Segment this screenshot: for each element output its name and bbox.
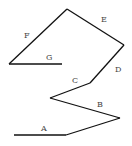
segments bbox=[9, 9, 124, 135]
segment-b-lower bbox=[66, 118, 120, 135]
label-a: A bbox=[40, 124, 47, 133]
segment-e bbox=[67, 9, 124, 45]
label-b: B bbox=[97, 100, 103, 109]
segment-b-upper bbox=[50, 98, 120, 118]
segment-f bbox=[9, 9, 67, 64]
path-diagram: A B C D E F G bbox=[0, 0, 132, 146]
labels: A B C D E F G bbox=[24, 15, 121, 133]
label-c: C bbox=[72, 76, 78, 85]
label-e: E bbox=[101, 15, 107, 24]
segment-c bbox=[50, 83, 90, 98]
label-g: G bbox=[46, 53, 52, 62]
label-f: F bbox=[24, 31, 30, 40]
segment-d bbox=[90, 45, 124, 83]
label-d: D bbox=[115, 65, 121, 74]
